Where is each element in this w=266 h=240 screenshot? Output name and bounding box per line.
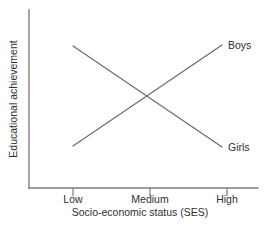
x-axis-title: Socio-economic status (SES) — [72, 206, 209, 218]
x-tick-label-high: High — [216, 193, 238, 205]
x-tick-label-medium: Medium — [131, 193, 169, 205]
y-axis-title: Educational achievement — [7, 40, 19, 157]
series-label-girls: Girls — [228, 141, 250, 153]
chart-figure: Boys Girls Low Medium High Socio-economi… — [0, 0, 266, 240]
line-chart-canvas: Boys Girls Low Medium High Socio-economi… — [0, 0, 266, 240]
series-label-boys: Boys — [228, 39, 251, 51]
x-tick-label-low: Low — [63, 193, 83, 205]
